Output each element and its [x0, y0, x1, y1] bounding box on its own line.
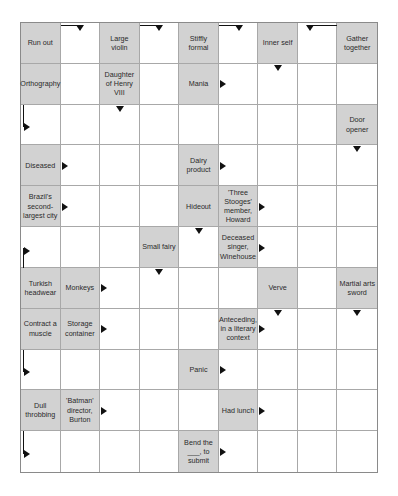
clue-text: Dull throbbing [22, 390, 59, 430]
answer-cell[interactable] [179, 105, 219, 146]
answer-cell[interactable] [337, 350, 377, 391]
clue-text: Dairy product [180, 145, 217, 185]
answer-cell[interactable] [140, 431, 180, 472]
clue-cell: Brazil's second-largest city [21, 186, 61, 227]
answer-cell[interactable] [298, 350, 338, 391]
answer-cell[interactable] [140, 64, 180, 105]
clue-text: Had lunch [220, 390, 257, 430]
answer-cell[interactable] [61, 431, 101, 472]
arrow-right-icon [259, 407, 265, 415]
arrow-down-icon [195, 228, 203, 234]
answer-cell[interactable] [298, 268, 338, 309]
arrow-right-icon [24, 247, 30, 255]
clue-text: Storage container [62, 309, 99, 349]
answer-cell[interactable] [100, 350, 140, 391]
clue-cell: 'Three Stooges' member, Howard [219, 186, 259, 227]
answer-cell[interactable] [298, 431, 338, 472]
answer-cell[interactable] [298, 186, 338, 227]
clue-text: Orthography [22, 64, 59, 104]
answer-cell[interactable] [337, 186, 377, 227]
clue-text: Panic [180, 350, 217, 390]
answer-cell[interactable] [140, 309, 180, 350]
answer-cell[interactable] [61, 64, 101, 105]
answer-cell[interactable] [258, 105, 298, 146]
clue-text: 'Three Stooges' member, Howard [220, 186, 257, 226]
clue-cell: Daughter of Henry VIII [100, 64, 140, 105]
answer-cell[interactable] [140, 186, 180, 227]
answer-cell[interactable] [100, 227, 140, 268]
clue-cell: Turkish headwear [21, 268, 61, 309]
answer-cell[interactable] [298, 309, 338, 350]
answer-cell[interactable] [298, 145, 338, 186]
clue-text: Brazil's second-largest city [22, 186, 59, 226]
answer-cell[interactable] [179, 309, 219, 350]
answer-cell[interactable] [258, 350, 298, 391]
clue-cell: Martial arts sword [337, 268, 377, 309]
clue-cell: Small fairy [140, 227, 180, 268]
clue-cell: Dairy product [179, 145, 219, 186]
clue-cell: Stiffly formal [179, 23, 219, 64]
clue-cell: Inner self [258, 23, 298, 64]
clue-cell: Door opener [337, 105, 377, 146]
clue-cell: Hideout [179, 186, 219, 227]
clue-text: Verve [259, 268, 296, 308]
answer-cell[interactable] [179, 390, 219, 431]
answer-cell[interactable] [337, 227, 377, 268]
arrow-right-icon [24, 123, 30, 131]
answer-cell[interactable] [298, 23, 338, 64]
crossword-grid: Run outLarge violinStiffly formalInner s… [20, 22, 378, 473]
answer-cell[interactable] [179, 268, 219, 309]
answer-cell[interactable] [140, 105, 180, 146]
arrow-down-icon [155, 25, 163, 31]
arrow-down-icon [306, 25, 314, 31]
clue-cell: Large violin [100, 23, 140, 64]
clue-cell: Contract a muscle [21, 309, 61, 350]
clue-cell: Mania [179, 64, 219, 105]
answer-cell[interactable] [258, 431, 298, 472]
answer-cell[interactable] [258, 145, 298, 186]
answer-cell[interactable] [298, 64, 338, 105]
arrow-down-icon [274, 310, 282, 316]
clue-text: 'Batman' director, Burton [62, 390, 99, 430]
answer-cell[interactable] [100, 186, 140, 227]
answer-cell[interactable] [219, 268, 259, 309]
clue-cell: Orthography [21, 64, 61, 105]
arrow-right-icon [24, 450, 30, 458]
clue-cell: Gather together [337, 23, 377, 64]
arrow-right-icon [259, 325, 265, 333]
answer-cell[interactable] [298, 390, 338, 431]
answer-cell[interactable] [337, 431, 377, 472]
arrow-down-icon [116, 106, 124, 112]
answer-cell[interactable] [140, 390, 180, 431]
answer-cell[interactable] [140, 145, 180, 186]
clue-text: Run out [22, 23, 59, 63]
clue-cell: Panic [179, 350, 219, 391]
answer-cell[interactable] [100, 431, 140, 472]
clue-text: Deceased singer, Winehouse [220, 227, 257, 267]
answer-cell[interactable] [337, 64, 377, 105]
clue-cell: Storage container [61, 309, 101, 350]
answer-cell[interactable] [140, 350, 180, 391]
arrow-down-icon [76, 25, 84, 31]
arrow-right-icon [220, 162, 226, 170]
answer-cell[interactable] [61, 350, 101, 391]
arrow-down-icon [155, 269, 163, 275]
arrow-right-icon [220, 448, 226, 456]
clue-cell: Monkeys [61, 268, 101, 309]
clue-cell: Run out [21, 23, 61, 64]
answer-cell[interactable] [298, 227, 338, 268]
clue-text: Stiffly formal [180, 23, 217, 63]
answer-cell[interactable] [100, 145, 140, 186]
clue-cell: 'Batman' director, Burton [61, 390, 101, 431]
arrow-right-icon [24, 368, 30, 376]
answer-cell[interactable] [298, 105, 338, 146]
arrow-right-icon [220, 80, 226, 88]
answer-cell[interactable] [337, 390, 377, 431]
answer-cell[interactable] [61, 105, 101, 146]
answer-cell[interactable] [61, 227, 101, 268]
arrow-down-icon [353, 310, 361, 316]
clue-text: Martial arts sword [338, 268, 376, 308]
clue-cell: Dull throbbing [21, 390, 61, 431]
clue-text: Mania [180, 64, 217, 104]
answer-cell[interactable] [219, 105, 259, 146]
